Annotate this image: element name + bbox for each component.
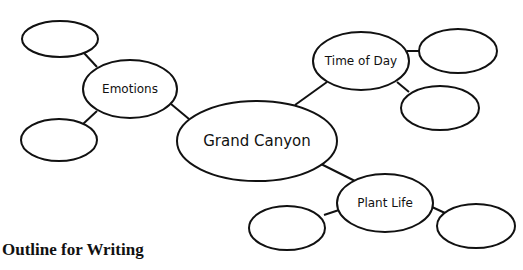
detail-bubble-ellipse [401,86,479,130]
detail-bubble-ellipse [437,204,515,248]
detail-bubble-emotions-detail-2 [21,119,97,161]
subtopic-plant-life: Plant Life [337,174,433,232]
detail-bubble-ellipse [249,206,325,250]
subtopic-label: Emotions [102,82,158,96]
connector-plant-life-to-plant-detail-1 [324,210,339,215]
detail-bubble-time-detail-1 [419,29,497,73]
main-topic-grand-canyon: Grand Canyon [177,101,337,181]
detail-bubble-plant-detail-1 [249,206,325,250]
detail-bubble-plant-detail-2 [437,204,515,248]
detail-bubble-time-detail-2 [401,86,479,130]
web-diagram: EmotionsTime of DayPlant Life Grand Cany… [0,0,523,270]
outline-heading: Outline for Writing [2,240,144,260]
connector-time-of-day-to-time-detail-2 [397,82,409,92]
connector-emotions-detail-2-to-emotions [83,111,97,124]
main-topic-label: Grand Canyon [203,132,311,150]
connector-emotions-detail-1-to-emotions [84,53,97,67]
connector-plant-life-to-plant-detail-2 [432,207,445,213]
detail-bubble-ellipse [22,21,98,57]
detail-bubble-ellipse [21,119,97,161]
connector-emotions-to-grand-canyon [171,104,189,119]
subtopic-time-of-day: Time of Day [313,32,409,90]
subtopic-label: Plant Life [357,196,413,210]
center-node: Grand Canyon [177,101,337,181]
connector-grand-canyon-to-plant-life [321,164,355,181]
detail-bubble-emotions-detail-1 [22,21,98,57]
subtopic-label: Time of Day [324,54,397,68]
connector-grand-canyon-to-time-of-day [295,82,327,105]
detail-bubble-ellipse [419,29,497,73]
subtopic-emotions: Emotions [83,60,177,118]
